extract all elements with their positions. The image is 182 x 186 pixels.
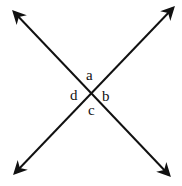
intersecting-lines-diagram: a b c d xyxy=(0,0,182,186)
angle-label-a: a xyxy=(86,67,93,83)
angle-label-b: b xyxy=(102,88,110,104)
line-2 xyxy=(15,8,173,173)
angle-label-c: c xyxy=(88,102,95,118)
angle-label-d: d xyxy=(70,87,78,103)
